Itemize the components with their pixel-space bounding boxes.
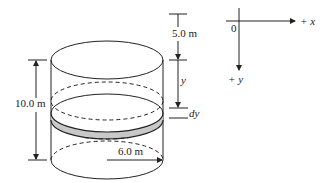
cylinder-bottom-front	[51, 160, 163, 179]
top-distance-label: 5.0 m	[172, 27, 198, 39]
height-dimension	[28, 60, 47, 160]
coordinate-axes	[226, 8, 295, 70]
slab-dy	[51, 94, 163, 139]
y-axis-label: + y	[228, 73, 243, 85]
thickness-label: dy	[189, 107, 200, 119]
depth-label: y	[180, 74, 186, 86]
depth-dimension	[169, 60, 188, 118]
cylinder-bottom-back	[51, 141, 163, 160]
cylinder-top-ellipse	[51, 41, 163, 79]
radius-label: 6.0 m	[118, 145, 144, 157]
slab-top-back	[51, 94, 163, 113]
height-label: 10.0 m	[15, 97, 46, 109]
x-axis-label: + x	[300, 15, 315, 27]
dashed-slice-ellipse	[51, 82, 163, 120]
origin-label: 0	[231, 22, 237, 34]
cylinder-tank-diagram: 10.0 m 6.0 m 5.0 m y dy 0 + x + y	[0, 0, 332, 183]
cylinder	[51, 41, 163, 179]
